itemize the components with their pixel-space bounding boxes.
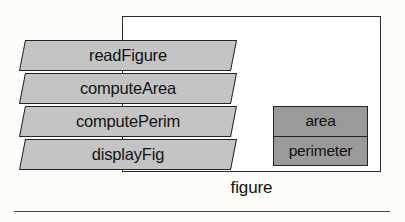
operation-shape-read-figure[interactable]: readFigure xyxy=(19,40,237,71)
operation-label: computeArea xyxy=(23,74,233,103)
operation-label: readFigure xyxy=(23,41,233,70)
operation-label: computePerim xyxy=(23,107,233,136)
operation-shape-display-fig[interactable]: displayFig xyxy=(19,139,237,170)
page-divider-rule xyxy=(14,211,390,212)
attribute-cell-perimeter[interactable]: perimeter xyxy=(274,136,367,166)
diagram-canvas: readFigure computeArea computePerim disp… xyxy=(0,0,405,222)
operation-shape-compute-area[interactable]: computeArea xyxy=(19,73,237,104)
operation-label: displayFig xyxy=(23,140,233,169)
attribute-box: area perimeter xyxy=(273,106,368,166)
operation-shape-compute-perim[interactable]: computePerim xyxy=(19,106,237,137)
attribute-cell-area[interactable]: area xyxy=(274,107,367,136)
module-caption-label: figure xyxy=(122,178,381,198)
